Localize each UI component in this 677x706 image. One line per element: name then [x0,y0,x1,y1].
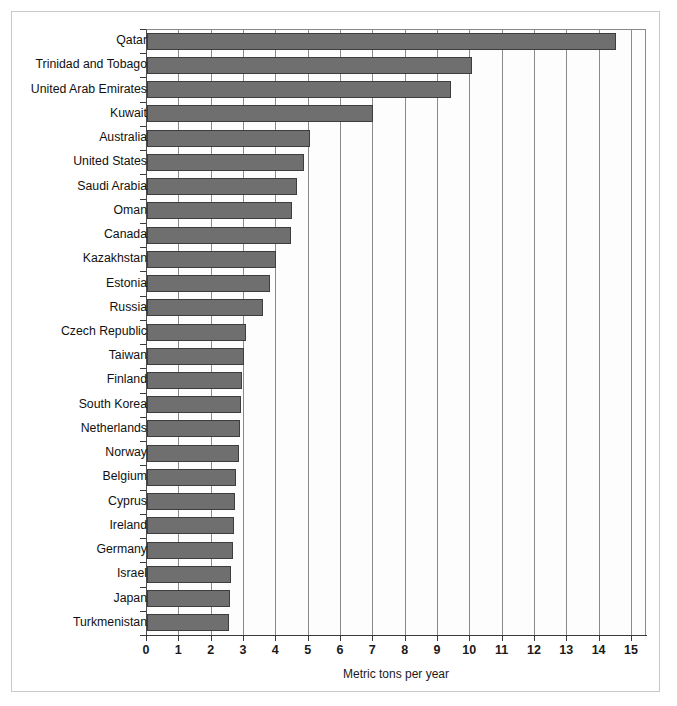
y-tick [140,562,146,563]
y-tick [140,368,146,369]
x-tick-label: 15 [611,643,651,657]
bar [147,469,236,486]
bar [147,299,263,316]
bar [147,396,241,413]
x-tick [211,635,212,641]
gridline [502,29,503,635]
x-tick [308,635,309,641]
bar [147,614,229,631]
y-tick [140,490,146,491]
gridline [599,29,600,635]
x-tick [631,635,632,641]
y-tick [140,223,146,224]
bar [147,57,472,74]
category-label: South Korea [0,397,147,411]
x-tick [502,635,503,641]
bar [147,348,244,365]
bar [147,493,235,510]
y-tick [140,465,146,466]
x-tick [275,635,276,641]
category-label: Netherlands [0,421,147,435]
category-label: Trinidad and Tobago [0,57,147,71]
category-label: Germany [0,542,147,556]
gridline [631,29,632,635]
x-tick [372,635,373,641]
bar [147,202,292,219]
category-label: Kazakhstan [0,251,147,265]
y-tick [140,514,146,515]
x-axis-line [146,635,647,636]
y-tick [140,611,146,612]
category-label: Japan [0,591,147,605]
category-label: Estonia [0,276,147,290]
x-tick [243,635,244,641]
category-label: Oman [0,203,147,217]
category-label: Qatar [0,33,147,47]
category-label: Canada [0,227,147,241]
x-tick [405,635,406,641]
x-tick [534,635,535,641]
category-label: Saudi Arabia [0,179,147,193]
category-label: Israel [0,566,147,580]
bar [147,420,240,437]
bar [147,227,291,244]
gridline [405,29,406,635]
y-tick [140,29,146,30]
gridline [437,29,438,635]
bar [147,130,310,147]
category-label: Finland [0,372,147,386]
category-label: Norway [0,445,147,459]
y-tick [140,102,146,103]
bar [147,178,297,195]
x-axis-title: Metric tons per year [146,667,646,681]
bar [147,517,234,534]
y-tick [140,538,146,539]
bar [147,542,233,559]
bar-chart: QatarTrinidad and TobagoUnited Arab Emir… [12,12,661,693]
category-label: Czech Republic [0,324,147,338]
y-tick [140,441,146,442]
y-tick [140,344,146,345]
bar [147,566,231,583]
x-tick [178,635,179,641]
y-tick [140,199,146,200]
bar [147,154,304,171]
gridline [566,29,567,635]
y-tick [140,53,146,54]
bar [147,81,451,98]
y-tick [140,174,146,175]
category-label: United Arab Emirates [0,82,147,96]
bar [147,105,373,122]
bar [147,372,242,389]
y-tick [140,320,146,321]
y-tick [140,247,146,248]
category-label: Turkmenistan [0,615,147,629]
y-tick [140,77,146,78]
gridline [469,29,470,635]
bar [147,33,616,50]
y-tick [140,587,146,588]
category-label: Ireland [0,518,147,532]
category-label: United States [0,154,147,168]
y-tick [140,393,146,394]
x-tick [566,635,567,641]
bar [147,590,230,607]
x-tick [599,635,600,641]
x-tick [146,635,147,641]
y-tick [140,150,146,151]
category-label: Australia [0,130,147,144]
y-tick [140,296,146,297]
category-label: Kuwait [0,106,147,120]
category-label: Belgium [0,469,147,483]
x-tick [437,635,438,641]
chart-figure: QatarTrinidad and TobagoUnited Arab Emir… [11,11,660,692]
category-label: Russia [0,300,147,314]
x-tick [340,635,341,641]
x-tick [469,635,470,641]
gridline [534,29,535,635]
bar [147,275,270,292]
y-tick [140,417,146,418]
bar [147,324,246,341]
y-tick [140,126,146,127]
bar [147,251,276,268]
